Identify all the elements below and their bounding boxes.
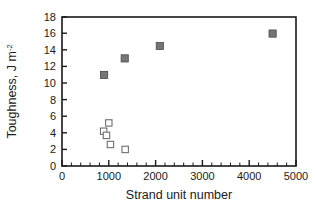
x-tick-label: 0 bbox=[59, 170, 65, 182]
x-tick-label: 1000 bbox=[97, 170, 121, 182]
svg-text:Toughness, J m-2: Toughness, J m-2 bbox=[5, 44, 19, 138]
y-axis-label: Toughness, J m-2 bbox=[5, 44, 19, 138]
data-point-open bbox=[106, 120, 112, 126]
data-point-open bbox=[122, 146, 128, 152]
chart-figure: 0 2 4 6 8 10 12 14 16 18 bbox=[0, 0, 316, 213]
x-tick-label: 2000 bbox=[143, 170, 167, 182]
data-point-open bbox=[107, 141, 113, 147]
x-axis-label: Strand unit number bbox=[126, 188, 232, 202]
x-tick-label: 4000 bbox=[237, 170, 261, 182]
data-point-filled bbox=[156, 42, 163, 49]
y-tick-label: 8 bbox=[50, 94, 56, 106]
data-point-filled bbox=[121, 55, 128, 62]
y-axis-label-superscript: -2 bbox=[5, 44, 14, 51]
y-tick-label: 16 bbox=[44, 27, 56, 39]
scatter-plot-svg: 0 2 4 6 8 10 12 14 16 18 bbox=[0, 0, 316, 213]
y-tick-label: 0 bbox=[50, 160, 56, 172]
x-tick-label: 5000 bbox=[284, 170, 308, 182]
y-tick-label: 18 bbox=[44, 11, 56, 23]
y-tick-label: 2 bbox=[50, 143, 56, 155]
data-point-filled bbox=[101, 71, 108, 78]
y-tick-label: 10 bbox=[44, 77, 56, 89]
y-axis-label-base: Toughness, J m bbox=[5, 51, 19, 139]
data-point-filled bbox=[269, 30, 276, 37]
y-tick-label: 4 bbox=[50, 127, 56, 139]
y-tick-label: 6 bbox=[50, 110, 56, 122]
y-tick-label: 12 bbox=[44, 60, 56, 72]
y-tick-label: 14 bbox=[44, 44, 56, 56]
data-point-open bbox=[103, 132, 109, 138]
x-tick-label: 3000 bbox=[190, 170, 214, 182]
